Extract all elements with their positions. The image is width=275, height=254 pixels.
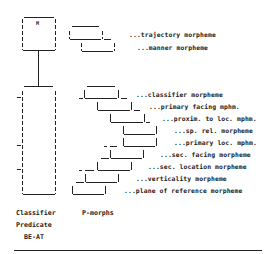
cp-col-left	[22, 91, 23, 194]
cp-col-right	[55, 91, 56, 194]
r4-lead-b	[110, 146, 117, 147]
r5-left	[110, 150, 111, 158]
manner-label: ...manner morpheme	[137, 44, 208, 52]
r8-right	[105, 186, 106, 194]
r1-left	[97, 102, 98, 110]
r4-right	[156, 138, 157, 146]
r8-left	[72, 186, 73, 194]
r2-bottom	[111, 122, 143, 123]
r0-tail	[121, 98, 127, 99]
trajectory-label: ...trajectory morpheme	[129, 31, 216, 39]
r6-lead-b	[85, 170, 94, 171]
r7-lead	[76, 182, 84, 183]
top-box-left	[22, 19, 23, 50]
bottom-rule	[14, 250, 262, 251]
sec-location-label: ...sec. location morpheme	[148, 163, 247, 171]
traj-box-left	[69, 31, 70, 39]
r4-bottom	[124, 146, 155, 147]
manner-box-left	[81, 43, 82, 51]
cp-tick-2	[17, 145, 21, 146]
r2-left	[110, 114, 111, 122]
r6-left	[97, 162, 98, 170]
r7-right	[118, 174, 119, 182]
r6-right	[131, 162, 132, 170]
sec-facing-label: ...sec. facing morpheme	[160, 151, 251, 159]
r3-right	[156, 126, 157, 134]
r1-right	[131, 102, 132, 110]
top-box-bottom	[23, 50, 55, 51]
r7-bottom	[86, 182, 117, 183]
pm-top	[87, 86, 115, 87]
proxim-label: ...proxim. to loc. mphm.	[162, 115, 257, 123]
top-box-top	[24, 17, 54, 18]
r5-right	[143, 150, 144, 158]
top-box-glyph: M	[36, 20, 39, 26]
r6-lead-a	[79, 170, 82, 171]
r0-bottom	[85, 98, 117, 99]
r2-right	[144, 114, 145, 122]
traj-tail	[104, 39, 111, 40]
traj-box-top	[72, 26, 99, 27]
plane-label: ...plane of reference morpheme	[124, 187, 242, 195]
manner-box-bottom	[82, 51, 113, 52]
r4-left	[123, 138, 124, 146]
verticality-label: ...verticality morpheme	[136, 175, 227, 183]
primary-loc-label: ...primary loc. mphm.	[174, 139, 257, 147]
cp-tick-3	[17, 169, 21, 170]
traj-box-bottom	[70, 39, 101, 40]
classifier-label: ...classifier morpheme	[136, 91, 223, 99]
r4-lead-a	[104, 146, 107, 147]
r6-bottom	[98, 170, 130, 171]
r5-lead	[101, 158, 109, 159]
r1-bottom	[98, 110, 130, 111]
caption-classifier: Classifier	[16, 209, 56, 217]
caption-predicate: Predicate	[16, 221, 52, 229]
sp-rel-label: ...sp. rel. morpheme	[174, 127, 253, 135]
stem-bar	[24, 86, 53, 87]
r0-lead	[79, 98, 83, 99]
caption-be-at: BE-AT	[24, 233, 44, 241]
r0-left	[84, 90, 85, 98]
r3-left	[123, 126, 124, 134]
stem-line	[38, 51, 39, 86]
r3-bottom	[124, 134, 155, 135]
cp-tick-1	[17, 97, 21, 98]
r8-bottom	[73, 194, 104, 195]
r7-left	[85, 174, 86, 182]
manner-box-right	[114, 43, 115, 51]
primary-facing-label: ...primary facing mphm.	[149, 103, 240, 111]
r1-tail	[134, 110, 140, 111]
traj-box-right	[102, 31, 103, 39]
top-box-right	[55, 19, 56, 50]
cp-col-bottom	[23, 194, 55, 195]
r0-right	[118, 90, 119, 98]
r2-tail	[146, 122, 150, 123]
r5-bottom	[111, 158, 142, 159]
caption-pmorphs: P-morphs	[82, 209, 114, 217]
